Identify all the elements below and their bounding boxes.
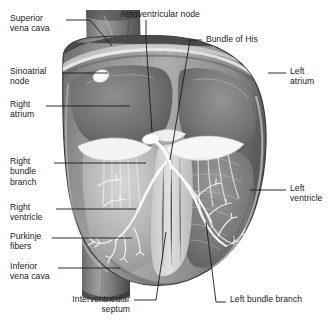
label-bundle-of-his: Bundle of His — [206, 34, 258, 44]
label-left-atrium: Left atrium — [290, 66, 314, 87]
heart-body — [58, 34, 268, 292]
label-left-ventricle: Left ventricle — [290, 183, 322, 204]
label-superior-vena-cava: Superior vena cava — [10, 13, 50, 34]
label-atrioventricular-node: Atrioventricular node — [120, 9, 200, 19]
label-interventricular-septum: Interventricular septum — [34, 294, 130, 315]
label-right-atrium: Right atrium — [10, 99, 34, 120]
label-sinoatrial-node: Sinoatrial node — [10, 66, 46, 87]
heart-conduction-diagram: Superior vena cava Sinoatrial node Right… — [0, 0, 330, 327]
label-left-bundle-branch: Left bundle branch — [230, 294, 302, 304]
label-right-bundle-branch: Right bundle branch — [10, 156, 37, 187]
label-inferior-vena-cava: Inferior vena cava — [10, 261, 50, 282]
label-purkinje-fibers: Purkinje fibers — [10, 231, 41, 252]
label-right-ventricle: Right ventricle — [10, 202, 42, 223]
